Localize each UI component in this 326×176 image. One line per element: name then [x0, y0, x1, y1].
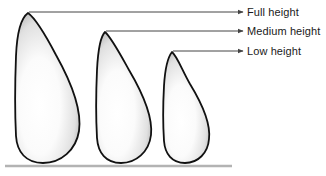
- height-comparison-diagram: Full height Medium height Low height: [0, 0, 326, 176]
- callout-label-full-height: Full height: [247, 6, 299, 18]
- plant-shape-full: [15, 13, 79, 163]
- plant-shape-medium: [96, 32, 151, 163]
- callout-label-low-height: Low height: [247, 45, 301, 57]
- callout-label-medium-height: Medium height: [247, 25, 320, 37]
- plant-shape-low: [163, 52, 209, 163]
